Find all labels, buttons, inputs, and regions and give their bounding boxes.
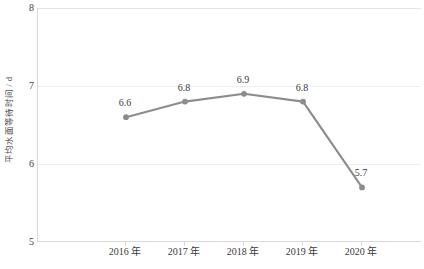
x-axis-tick-label: 2017 年 — [168, 246, 201, 258]
x-axis-tick-label: 2019 年 — [286, 246, 319, 258]
y-axis-tick-label: 7 — [14, 81, 34, 91]
x-axis-tick-label: 2018 年 — [227, 246, 260, 258]
x-axis-tick-label: 2016 年 — [109, 246, 142, 258]
data-point-label: 6.6 — [119, 98, 132, 108]
data-point-marker — [123, 114, 129, 120]
y-axis-tick-label: 5 — [14, 237, 34, 247]
plot-area — [37, 8, 421, 242]
data-point-label: 6.8 — [178, 83, 191, 93]
y-axis-tick-label: 8 — [14, 3, 34, 13]
series-line — [126, 94, 362, 188]
y-axis-tick-label: 6 — [14, 159, 34, 169]
data-point-marker — [182, 99, 188, 105]
line-chart: 平均水面等待时间 / d 5678 6.66.86.96.85.7 2016 年… — [0, 0, 424, 269]
series-layer — [38, 8, 422, 242]
data-point-marker — [300, 99, 306, 105]
data-point-marker — [359, 185, 365, 191]
y-axis-tick-labels: 5678 — [12, 0, 34, 269]
data-point-label: 6.9 — [237, 75, 250, 85]
data-point-label: 6.8 — [296, 83, 309, 93]
data-point-label: 5.7 — [355, 168, 368, 178]
x-axis-tick-label: 2020 年 — [345, 246, 378, 258]
data-point-marker — [241, 91, 247, 97]
